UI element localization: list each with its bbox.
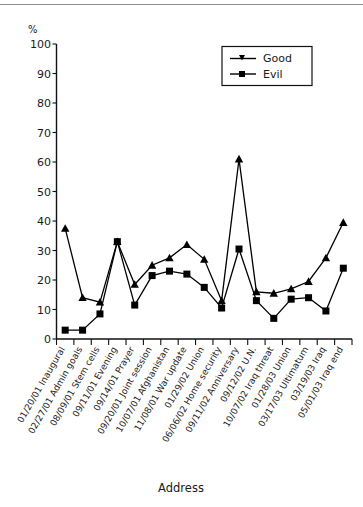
y-tick-label-50: 50 <box>37 186 51 199</box>
data-point-evil-0 <box>62 327 69 334</box>
data-point-evil-15 <box>322 307 329 314</box>
data-point-good-6 <box>165 254 173 262</box>
x-axis-ticks <box>57 339 353 345</box>
y-tick-label-100: 100 <box>30 38 51 51</box>
data-point-evil-11 <box>253 297 260 304</box>
data-point-good-5 <box>148 261 156 269</box>
legend-label-good: Good <box>263 52 292 65</box>
x-axis-category-labels: 01/20/01 Inaugural02/27/01 Admin goals08… <box>15 344 345 444</box>
chart-svg: 0102030405060708090100 % Good Evil 01/20… <box>0 0 363 507</box>
data-point-good-13 <box>287 285 295 293</box>
y-tick-label-80: 80 <box>37 97 51 110</box>
data-point-evil-14 <box>305 294 312 301</box>
data-point-evil-7 <box>183 271 190 278</box>
y-axis-unit-label: % <box>28 24 38 35</box>
series-layer <box>61 155 348 334</box>
data-point-good-15 <box>322 254 330 262</box>
chart-legend: Good Evil <box>222 47 312 86</box>
data-point-evil-4 <box>131 302 138 309</box>
data-point-evil-10 <box>236 246 243 253</box>
data-point-good-10 <box>235 155 243 163</box>
data-point-good-0 <box>61 224 69 232</box>
y-tick-label-40: 40 <box>37 215 51 228</box>
y-tick-label-20: 20 <box>37 274 51 287</box>
data-point-evil-13 <box>288 296 295 303</box>
data-point-evil-16 <box>340 265 347 272</box>
data-point-evil-2 <box>96 310 103 317</box>
data-point-evil-9 <box>218 305 225 312</box>
data-point-evil-3 <box>114 238 121 245</box>
data-point-good-7 <box>183 240 191 248</box>
data-point-evil-1 <box>79 327 86 334</box>
y-tick-label-30: 30 <box>37 245 51 258</box>
data-point-good-16 <box>339 218 347 226</box>
x-axis-title: Address <box>158 481 204 495</box>
y-tick-label-60: 60 <box>37 156 51 169</box>
series-line-good <box>65 159 343 302</box>
legend-marker-evil-square <box>239 71 245 77</box>
y-tick-label-70: 70 <box>37 127 51 140</box>
y-tick-label-90: 90 <box>37 68 51 81</box>
data-point-evil-6 <box>166 268 173 275</box>
data-point-evil-8 <box>201 284 208 291</box>
y-tick-label-10: 10 <box>37 304 51 317</box>
line-chart: 0102030405060708090100 % Good Evil 01/20… <box>0 0 363 507</box>
data-point-good-1 <box>78 294 86 302</box>
data-point-evil-5 <box>149 272 156 279</box>
y-tick-label-0: 0 <box>44 333 51 346</box>
y-axis-tick-labels: 0102030405060708090100 <box>30 38 51 346</box>
series-good <box>61 155 348 306</box>
legend-label-evil: Evil <box>263 68 283 81</box>
data-point-evil-12 <box>270 315 277 322</box>
